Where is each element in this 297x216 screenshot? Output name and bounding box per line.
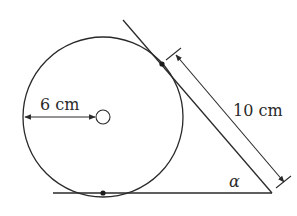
angle-label: α: [229, 172, 240, 191]
center-mark: [96, 110, 110, 124]
tangent-point-slant: [159, 61, 164, 66]
tangent-length-label: 10 cm: [233, 101, 283, 120]
radius-label: 6 cm: [40, 95, 79, 114]
geometry-diagram: 6 cm 10 cm α: [0, 0, 297, 216]
tangent-point-bottom: [100, 190, 105, 195]
